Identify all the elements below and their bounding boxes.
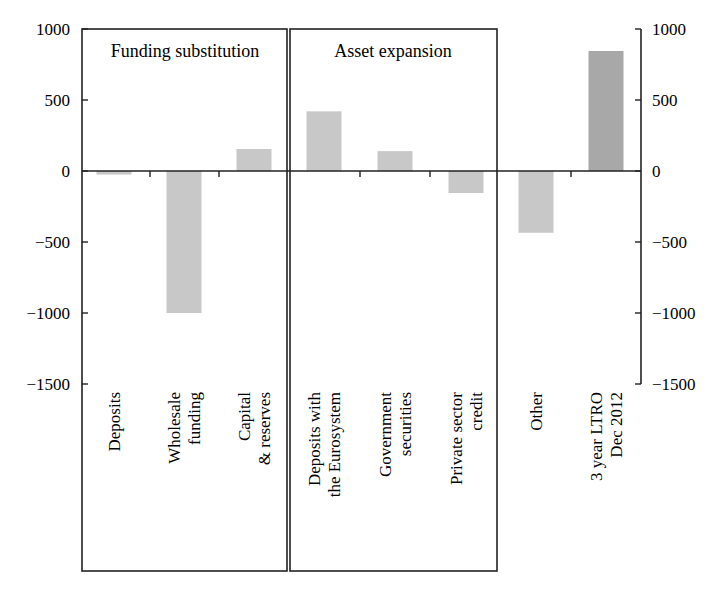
y-tick-label-left: −1500 [26,375,70,394]
y-tick-label-left: 1000 [36,20,70,39]
category-label: Capital [235,392,254,441]
category-label: Deposits [105,392,124,452]
group-boxes [82,29,497,571]
bar [237,149,272,171]
y-tick-label-right: −1500 [652,375,696,394]
y-tick-label-left: 500 [45,91,71,110]
bar [449,171,484,193]
y-tick-label-left: −500 [35,233,70,252]
y-tick-label-right: 0 [652,162,661,181]
bar [589,51,624,171]
category-label: Deposits with [305,392,324,486]
y-tick-label-left: −1000 [26,304,70,323]
category-label: Dec 2012 [607,392,626,458]
group-title-funding: Funding substitution [111,41,260,61]
y-tick-label-right: −1000 [652,304,696,323]
y-tick-label-right: 1000 [652,20,686,39]
group-title-asset: Asset expansion [334,41,451,61]
category-label: the Eurosystem [325,392,344,497]
bar [378,151,413,171]
category-label: Wholesale [165,392,184,464]
bar [519,171,554,233]
category-label: & reserves [255,392,274,465]
y-tick-label-right: −500 [652,233,687,252]
category-label: Government [376,392,395,477]
y-tick-label-left: 0 [62,162,71,181]
bar [307,111,342,171]
category-label: Private sector [447,392,466,485]
group-box-asset [290,29,497,571]
y-tick-label-right: 500 [652,91,678,110]
category-label: credit [467,392,486,431]
category-labels: DepositsWholesalefundingCapital& reserve… [105,392,626,498]
bar-chart: 1000100050050000−500−500−1000−1000−1500−… [0,0,725,592]
bars [97,51,624,313]
category-label: 3 year LTRO [587,392,606,481]
category-label: funding [185,392,204,445]
category-label: Other [527,392,546,431]
bar [167,171,202,313]
category-label: securities [396,392,415,456]
